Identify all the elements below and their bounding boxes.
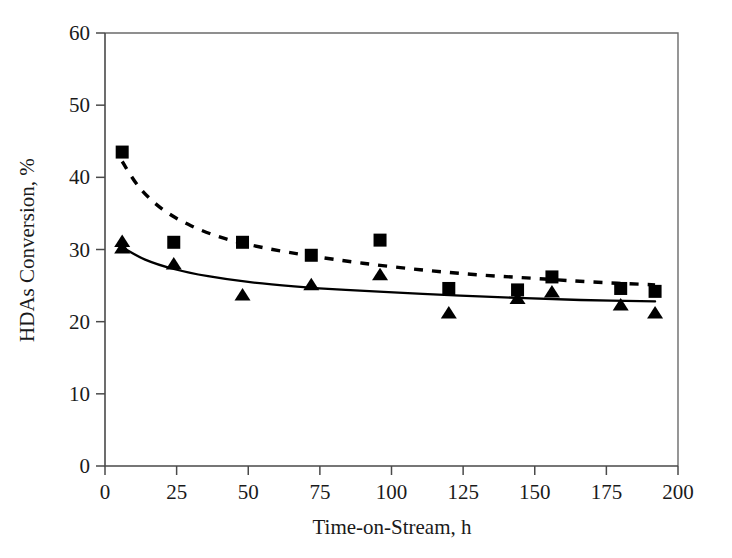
x-tick-label: 0: [100, 480, 111, 504]
series-0-data-point: [116, 146, 129, 159]
series-1-data-point: [372, 268, 388, 281]
series-1-data-point: [235, 288, 251, 301]
y-tick-label: 60: [69, 21, 90, 45]
y-tick-label: 20: [69, 310, 90, 334]
plot-frame: [105, 33, 678, 466]
y-tick-label: 10: [69, 382, 90, 406]
x-axis-title: Time-on-Stream, h: [312, 515, 472, 539]
series-1-data-point: [166, 257, 182, 270]
x-tick-label: 75: [309, 480, 330, 504]
x-tick-label: 100: [376, 480, 408, 504]
chart-canvas: 0255075100125150175200 0102030405060 Tim…: [0, 0, 732, 558]
series-0-data-point: [305, 249, 318, 262]
series-1-trend-line: [122, 247, 655, 301]
y-tick-label: 50: [69, 93, 90, 117]
x-axis-ticks: 0255075100125150175200: [100, 466, 694, 504]
series-0-data-point: [442, 282, 455, 295]
x-tick-label: 50: [238, 480, 259, 504]
y-tick-label: 0: [80, 454, 91, 478]
series-0-data-point: [236, 236, 249, 249]
series-1-data-point: [441, 306, 457, 319]
x-tick-label: 125: [447, 480, 479, 504]
series-1-data-point: [647, 306, 663, 319]
series-0-data-point: [374, 234, 387, 247]
series-0-data-point: [649, 285, 662, 298]
series-0-data-point: [545, 270, 558, 283]
series-0-data-point: [614, 282, 627, 295]
series-0-trend-line: [122, 161, 655, 284]
y-tick-label: 40: [69, 165, 90, 189]
x-tick-label: 25: [166, 480, 187, 504]
series-trend-lines: [122, 161, 655, 301]
x-tick-label: 150: [519, 480, 551, 504]
x-tick-label: 175: [591, 480, 623, 504]
series-1-data-point: [114, 241, 130, 254]
series-0-data-point: [167, 236, 180, 249]
figure-container: 0255075100125150175200 0102030405060 Tim…: [0, 0, 732, 558]
series-1-data-point: [544, 285, 560, 298]
y-axis-title: HDAs Conversion, %: [15, 158, 39, 342]
x-tick-label: 200: [662, 480, 694, 504]
y-tick-label: 30: [69, 238, 90, 262]
y-axis-ticks: 0102030405060: [69, 21, 105, 478]
series-1-data-point: [303, 278, 319, 291]
